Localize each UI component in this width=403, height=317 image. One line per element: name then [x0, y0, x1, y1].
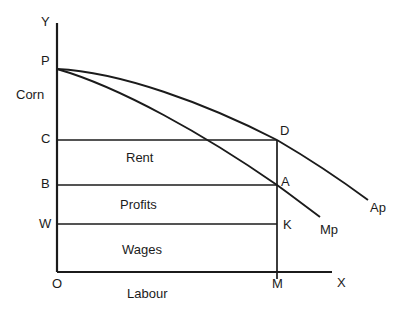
point-label-d: D	[280, 124, 289, 137]
origin-label: O	[52, 277, 62, 290]
point-label-k: K	[283, 218, 292, 231]
point-label-a: A	[281, 175, 290, 188]
region-label-rent: Rent	[126, 151, 153, 164]
region-label-wages: Wages	[122, 243, 162, 256]
ricardian-distribution-diagram: Y X O P C B W M Corn Labour D A K Ap Mp …	[0, 0, 403, 317]
curve-label-mp: Mp	[320, 223, 338, 236]
y-axis-label: Y	[41, 15, 50, 28]
y-mark-b: B	[41, 177, 50, 190]
x-axis-title: Labour	[127, 287, 167, 300]
x-axis-label: X	[337, 276, 346, 289]
diagram-canvas	[0, 0, 403, 317]
y-mark-w: W	[39, 217, 51, 230]
y-mark-c: C	[41, 132, 50, 145]
curve-ap	[57, 69, 368, 200]
region-label-profits: Profits	[120, 198, 157, 211]
curve-label-ap: Ap	[370, 201, 386, 214]
y-axis-title: Corn	[16, 88, 44, 101]
y-mark-p: P	[41, 54, 50, 67]
x-mark-m: M	[272, 277, 283, 290]
